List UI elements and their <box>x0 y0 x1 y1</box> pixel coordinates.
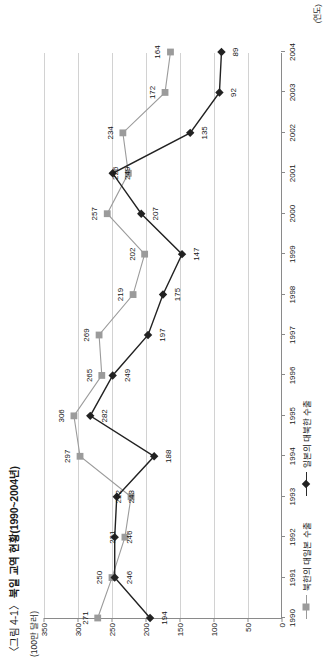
x-axis-unit-label: (연도) <box>311 4 322 23</box>
x-tick-label: 1991 <box>288 569 297 587</box>
chart-legend: 북한의 대일본 수출일본의 대북한 수출 <box>300 400 312 619</box>
x-tick-label: 2003 <box>288 84 297 102</box>
y-tick-label: 250 <box>108 623 117 636</box>
x-tick-label: 1993 <box>288 488 297 506</box>
data-point-label: 172 <box>148 86 157 99</box>
legend-item[interactable]: 북한의 대일본 수출 <box>300 522 312 619</box>
data-point-label: 207 <box>151 207 160 220</box>
data-point-label: 297 <box>63 450 72 463</box>
square-marker <box>71 412 78 419</box>
data-point-label: 135 <box>200 126 209 139</box>
data-point-label: 194 <box>160 611 169 624</box>
data-point-label: 249 <box>122 369 131 382</box>
data-point-label: 92 <box>229 88 238 97</box>
x-tick-label: 1992 <box>288 528 297 546</box>
data-point-label: 246 <box>124 530 133 543</box>
y-tick-mark <box>282 618 283 622</box>
y-tick-label: 350 <box>40 623 49 636</box>
data-point-label: 265 <box>84 369 93 382</box>
data-point-label: 269 <box>82 328 91 341</box>
y-tick-label: 200 <box>142 623 151 636</box>
diamond-marker <box>86 412 94 420</box>
square-marker <box>303 604 310 611</box>
data-point-label: 250 <box>95 571 104 584</box>
x-tick-label: 1995 <box>288 407 297 425</box>
data-point-label: 89 <box>231 48 240 57</box>
rotated-chart-stage: 〈그림 4-1〉 북일 교역 현황(1990~2004년) (100만 달러) … <box>0 0 326 663</box>
y-tick-label: 50 <box>244 623 253 632</box>
x-tick-label: 1999 <box>288 245 297 263</box>
square-marker <box>77 453 84 460</box>
data-point-label: 147 <box>192 247 201 260</box>
y-tick-mark <box>146 618 147 622</box>
data-point-label: 231 <box>107 530 116 543</box>
data-point-label: 306 <box>56 409 65 422</box>
square-marker <box>104 210 111 217</box>
data-point-label: 243 <box>126 490 135 503</box>
y-tick-mark <box>248 618 249 622</box>
legend-item[interactable]: 일본의 대북한 수출 <box>300 400 312 497</box>
legend-label: 북한의 대일본 수출 <box>300 522 312 591</box>
x-tick-label: 2000 <box>288 205 297 223</box>
data-point-label: 175 <box>173 288 182 301</box>
data-point-label: 271 <box>80 611 89 624</box>
legend-swatch <box>306 472 307 496</box>
square-marker <box>96 332 103 339</box>
data-point-label: 282 <box>100 409 109 422</box>
legend-label: 일본의 대북한 수출 <box>300 400 312 469</box>
data-point-label: 164 <box>153 45 162 58</box>
x-tick-label: 1994 <box>288 447 297 465</box>
caption-title: 북일 교역 현황(1990~2004년) <box>8 466 20 598</box>
data-point-label: 219 <box>116 288 125 301</box>
data-point-label: 234 <box>105 126 114 139</box>
square-marker <box>119 129 126 136</box>
y-axis-unit-label: (100만 달러) <box>27 611 39 657</box>
x-tick-label: 1997 <box>288 326 297 344</box>
caption-prefix: 〈그림 4-1〉 <box>8 601 20 658</box>
data-point-label: 202 <box>127 247 136 260</box>
x-tick-label: 1990 <box>288 609 297 627</box>
y-tick-label: 300 <box>74 623 83 636</box>
y-tick-mark <box>78 618 79 622</box>
x-tick-label: 1996 <box>288 367 297 385</box>
x-tick-label: 2002 <box>288 124 297 142</box>
figure-caption: 〈그림 4-1〉 북일 교역 현황(1990~2004년) <box>6 466 21 657</box>
x-tick-label: 1998 <box>288 286 297 304</box>
data-point-label: 246 <box>124 571 133 584</box>
data-point-label: 222 <box>114 490 123 503</box>
y-tick-label: 0 <box>278 623 287 627</box>
x-tick-label: 2001 <box>288 164 297 182</box>
square-marker <box>167 49 174 56</box>
square-marker <box>94 615 101 622</box>
plot-area: 050100150200250300350 199019911992199319… <box>44 53 282 619</box>
data-point-label: 197 <box>158 328 167 341</box>
diamond-marker <box>217 48 225 56</box>
y-tick-mark <box>44 618 45 622</box>
y-tick-label: 100 <box>210 623 219 636</box>
legend-swatch <box>306 595 307 619</box>
square-marker <box>98 372 105 379</box>
square-marker <box>130 291 137 298</box>
diamond-marker <box>302 480 310 488</box>
y-tick-mark <box>112 618 113 622</box>
y-tick-label: 150 <box>176 623 185 636</box>
data-point-label: 257 <box>90 207 99 220</box>
diamond-marker <box>159 290 167 298</box>
data-point-label: 226 <box>111 167 120 180</box>
data-point-label: 249 <box>122 167 131 180</box>
square-marker <box>141 251 148 258</box>
data-point-label: 188 <box>164 450 173 463</box>
y-tick-mark <box>214 618 215 622</box>
square-marker <box>162 89 169 96</box>
y-tick-mark <box>180 618 181 622</box>
x-tick-label: 2004 <box>288 43 297 61</box>
